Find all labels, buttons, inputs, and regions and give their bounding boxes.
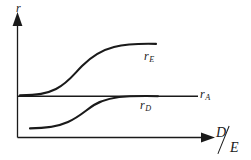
curve-label-debt-return: rD (140, 99, 151, 113)
x-axis-arrowhead (201, 133, 215, 143)
curve-label-equity-subscript: E (149, 55, 154, 64)
x-axis-label-debt-equity: D E (216, 126, 250, 158)
curve-label-equity-base: r (144, 49, 149, 63)
curve-label-equity-return: rE (144, 50, 154, 64)
equity-return-curve (20, 44, 156, 95)
diagram-canvas (0, 0, 251, 160)
baseline-label-subscript: A (205, 93, 210, 102)
baseline-label-asset-return: rA (200, 88, 210, 102)
curve-label-debt-subscript: D (145, 104, 151, 113)
debt-return-curve (30, 96, 158, 128)
baseline-label-base: r (200, 87, 205, 101)
y-axis-label: r (16, 2, 21, 14)
figure-container: r rE rD rA D E (0, 0, 251, 160)
x-axis-label-denominator: E (230, 141, 239, 155)
curve-label-debt-base: r (140, 98, 145, 112)
